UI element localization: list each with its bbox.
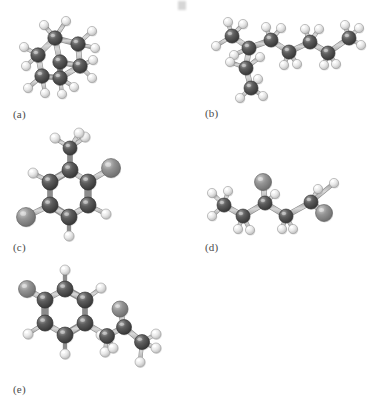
atom-specular-highlight: [40, 295, 45, 299]
atom-specular-highlight: [220, 201, 224, 204]
atom-carbon: [242, 41, 256, 55]
atom-group-d: [207, 174, 339, 236]
atom-specular-highlight: [137, 338, 142, 342]
atom-hydrogen: [354, 23, 363, 32]
atom-specular-highlight: [235, 226, 238, 228]
atom-specular-highlight: [285, 48, 289, 51]
atom-carbon: [304, 195, 318, 209]
atom-carbon: [42, 174, 58, 190]
atom-hydrogen: [90, 43, 99, 52]
atom-hydrogen: [225, 57, 234, 66]
atom-specular-highlight: [62, 351, 65, 353]
atom-specular-highlight: [66, 144, 70, 147]
atom-specular-highlight: [227, 59, 230, 61]
atom-specular-highlight: [237, 95, 240, 97]
atom-specular-highlight: [21, 44, 24, 46]
atom-specular-highlight: [71, 84, 74, 86]
atom-specular-highlight: [267, 36, 271, 39]
atom-heteroatom: [255, 174, 272, 191]
atom-specular-highlight: [23, 63, 26, 65]
atom-specular-highlight: [92, 45, 95, 47]
atom-carbon: [303, 35, 317, 49]
atom-specular-highlight: [119, 323, 124, 327]
atom-specular-highlight: [137, 359, 140, 361]
atom-specular-highlight: [89, 75, 92, 77]
atom-specular-highlight: [42, 90, 45, 92]
atom-specular-highlight: [56, 74, 61, 77]
atom-carbon: [37, 292, 53, 308]
atom-carbon: [63, 141, 77, 155]
atom-carbon: [80, 197, 96, 213]
atom-hydrogen: [207, 211, 216, 220]
atom-specular-highlight: [62, 267, 65, 269]
atom-carbon: [258, 196, 272, 210]
atom-specular-highlight: [40, 318, 45, 322]
atom-specular-highlight: [358, 42, 361, 44]
atom-carbon: [61, 209, 77, 225]
atom-specular-highlight: [51, 34, 56, 37]
atom-specular-highlight: [225, 188, 228, 190]
atom-hydrogen: [319, 60, 328, 69]
atom-specular-highlight: [52, 135, 55, 137]
atom-heteroatom: [17, 208, 36, 227]
molecule-canvas: [0, 0, 377, 406]
molecule-d: [207, 174, 339, 236]
atom-hydrogen: [40, 88, 49, 97]
atom-specular-highlight: [153, 345, 156, 347]
atom-specular-highlight: [231, 52, 234, 54]
atom-carbon: [80, 174, 96, 190]
panel-label-d: (d): [205, 241, 218, 253]
atom-hydrogen: [235, 93, 244, 102]
atom-specular-highlight: [66, 233, 69, 235]
atom-specular-highlight: [22, 284, 27, 288]
atom-specular-highlight: [255, 76, 258, 78]
atom-specular-highlight: [258, 177, 263, 181]
atom-carbon: [42, 197, 58, 213]
atom-specular-highlight: [290, 226, 293, 228]
atom-specular-highlight: [103, 211, 106, 213]
panel-label-e: (e): [13, 383, 26, 395]
atom-specular-highlight: [45, 177, 50, 181]
molecule-a: [19, 16, 100, 99]
atom-specular-highlight: [34, 51, 39, 54]
atom-specular-highlight: [240, 21, 243, 23]
atom-specular-highlight: [260, 93, 263, 95]
atom-hydrogen: [74, 128, 84, 138]
atom-hydrogen: [276, 23, 285, 32]
atom-hydrogen: [87, 26, 96, 35]
atom-group-b: [211, 17, 366, 103]
atom-specular-highlight: [63, 18, 66, 20]
atom-carbon: [244, 81, 258, 95]
atom-hydrogen: [288, 224, 297, 233]
atom-specular-highlight: [316, 26, 319, 28]
atom-specular-highlight: [282, 212, 286, 215]
atom-specular-highlight: [324, 49, 328, 52]
page-artifact-smudge: [178, 1, 186, 10]
atom-specular-highlight: [74, 40, 79, 43]
atom-carbon: [342, 31, 356, 45]
atom-specular-highlight: [319, 208, 324, 212]
atom-carbon: [37, 315, 53, 331]
atom-hydrogen: [258, 91, 267, 100]
atom-specular-highlight: [245, 44, 249, 47]
atom-specular-highlight: [83, 200, 88, 204]
atom-specular-highlight: [41, 22, 44, 24]
molecule-e: [19, 265, 162, 368]
atom-hydrogen: [23, 329, 33, 339]
atom-specular-highlight: [105, 162, 111, 167]
atom-hydrogen: [88, 55, 97, 64]
atom-hydrogen: [135, 357, 145, 367]
atom-carbon: [53, 71, 67, 85]
atom-hydrogen: [23, 83, 32, 92]
atom-hydrogen: [60, 265, 70, 275]
atom-specular-highlight: [38, 72, 43, 75]
atom-heteroatom: [316, 205, 333, 222]
atom-group-c: [17, 128, 122, 242]
atom-carbon: [53, 55, 67, 69]
atom-hydrogen: [279, 60, 288, 69]
atom-specular-highlight: [345, 34, 349, 37]
atom-carbon: [264, 33, 278, 47]
atom-hydrogen: [60, 349, 70, 359]
atom-specular-highlight: [60, 284, 65, 288]
atom-specular-highlight: [90, 57, 93, 59]
